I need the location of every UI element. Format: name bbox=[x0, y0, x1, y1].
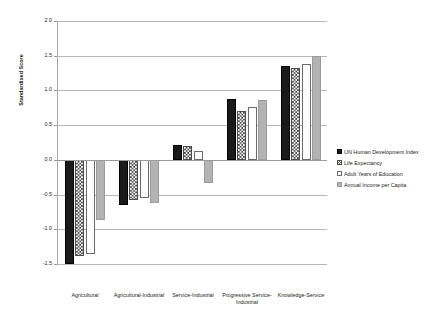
bar bbox=[140, 160, 149, 198]
bar bbox=[194, 151, 203, 160]
bar bbox=[258, 100, 267, 160]
y-tick-mark bbox=[54, 125, 57, 126]
x-axis-label: Knowledge-Service bbox=[274, 292, 328, 299]
bar bbox=[119, 160, 128, 205]
x-axis-label: Progressive Service-Industrial bbox=[220, 292, 274, 306]
x-axis-labels: AgriculturalAgricultural-IndustrialServi… bbox=[58, 292, 328, 318]
bar bbox=[150, 160, 159, 203]
bar-group bbox=[166, 21, 220, 264]
chart-legend: UN Human Development IndexLife Expectanc… bbox=[337, 146, 435, 190]
y-tick-label: 0.5 bbox=[45, 123, 53, 128]
y-tick-label: -1.0 bbox=[43, 227, 52, 232]
bar bbox=[291, 68, 300, 160]
bar bbox=[129, 160, 138, 200]
x-axis-label: Service-Industrial bbox=[166, 292, 220, 299]
y-axis-title: Standardised Score bbox=[14, 30, 28, 130]
legend-item[interactable]: Adult Years of Education bbox=[337, 168, 435, 179]
bar bbox=[237, 111, 246, 160]
legend-label: UN Human Development Index bbox=[344, 149, 419, 155]
bar-group bbox=[58, 21, 112, 264]
bar bbox=[173, 145, 182, 160]
bar-group bbox=[274, 21, 328, 264]
x-axis-label: Agricultural bbox=[58, 292, 112, 299]
legend-item[interactable]: UN Human Development Index bbox=[337, 146, 435, 157]
bar-group bbox=[220, 21, 274, 264]
y-tick-label: 1.0 bbox=[45, 88, 53, 93]
legend-swatch-icon bbox=[337, 171, 342, 176]
bar-series-container bbox=[58, 21, 327, 264]
bar bbox=[312, 56, 321, 160]
bar bbox=[302, 64, 311, 160]
legend-label: Adult Years of Education bbox=[344, 171, 403, 177]
bar bbox=[183, 146, 192, 160]
bar bbox=[96, 160, 105, 220]
y-tick-mark bbox=[54, 56, 57, 57]
legend-label: Life Expectancy bbox=[344, 160, 382, 166]
y-tick-mark bbox=[54, 264, 57, 265]
legend-swatch-icon bbox=[337, 182, 342, 187]
gridline: -1.5 bbox=[57, 264, 327, 265]
bar bbox=[281, 66, 290, 160]
bar bbox=[227, 99, 236, 159]
y-tick-label: 0.0 bbox=[45, 157, 53, 162]
y-tick-label: -0.5 bbox=[43, 192, 52, 197]
plot-area: 2.01.51.00.50.0-0.5-1.0-1.5 bbox=[57, 21, 327, 264]
y-tick-mark bbox=[54, 90, 57, 91]
bar bbox=[65, 160, 74, 264]
y-tick-label: 1.5 bbox=[45, 53, 53, 58]
legend-label: Annual Income per Capita bbox=[344, 182, 406, 188]
legend-swatch-icon bbox=[337, 160, 342, 165]
bar bbox=[75, 160, 84, 256]
zero-axis-line: 0.0 bbox=[57, 160, 327, 161]
y-tick-label: -1.5 bbox=[43, 261, 52, 266]
y-tick-mark bbox=[54, 160, 57, 161]
y-tick-mark bbox=[54, 21, 57, 22]
legend-swatch-icon bbox=[337, 149, 342, 154]
bar bbox=[248, 107, 257, 160]
bar bbox=[86, 160, 95, 254]
y-tick-label: 2.0 bbox=[45, 18, 53, 23]
y-tick-mark bbox=[54, 229, 57, 230]
legend-item[interactable]: Annual Income per Capita bbox=[337, 179, 435, 190]
legend-item[interactable]: Life Expectancy bbox=[337, 157, 435, 168]
bar-group bbox=[112, 21, 166, 264]
x-axis-label: Agricultural-Industrial bbox=[112, 292, 166, 299]
y-tick-mark bbox=[54, 195, 57, 196]
bar-chart-figure: Standardised Score 2.01.51.00.50.0-0.5-1… bbox=[0, 0, 437, 330]
bar bbox=[204, 160, 213, 183]
